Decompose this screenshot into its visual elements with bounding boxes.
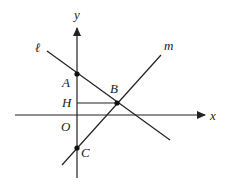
origin-label: O <box>61 119 71 134</box>
coordinate-diagram: y x ℓ m A B H O C <box>0 0 225 186</box>
point-a <box>74 71 79 76</box>
point-a-label: A <box>61 75 70 90</box>
point-c <box>74 145 79 150</box>
line-m-label: m <box>164 38 173 53</box>
x-axis-label: x <box>209 108 216 123</box>
point-c-label: C <box>81 145 90 160</box>
y-axis-label: y <box>72 7 80 22</box>
line-l-label: ℓ <box>35 40 41 55</box>
point-b <box>114 100 119 105</box>
point-h-label: H <box>61 95 72 110</box>
point-b-label: B <box>110 81 118 96</box>
